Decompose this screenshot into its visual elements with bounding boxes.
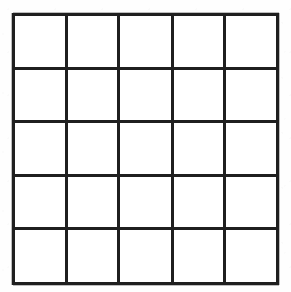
table-row (14, 14, 278, 68)
table-row (14, 122, 278, 176)
grid-table (14, 14, 278, 284)
grid-cell-r1c5[interactable] (225, 14, 278, 68)
grid-cell-r3c1[interactable] (14, 122, 67, 176)
grid-cell-r2c1[interactable] (14, 68, 67, 122)
figure-canvas (0, 0, 291, 292)
grid-cell-r5c3[interactable] (120, 230, 173, 284)
grid-body (14, 14, 278, 284)
grid-cell-r3c5[interactable] (225, 122, 278, 176)
grid-cell-r4c5[interactable] (225, 176, 278, 230)
grid-cell-r4c4[interactable] (172, 176, 225, 230)
grid-cell-r1c4[interactable] (172, 14, 225, 68)
grid-cell-r3c2[interactable] (67, 122, 120, 176)
grid-cell-r5c4[interactable] (172, 230, 225, 284)
grid-cell-r5c2[interactable] (67, 230, 120, 284)
table-row (14, 68, 278, 122)
grid-cell-r4c2[interactable] (67, 176, 120, 230)
grid-cell-r4c1[interactable] (14, 176, 67, 230)
grid-cell-r5c5[interactable] (225, 230, 278, 284)
table-row (14, 176, 278, 230)
grid-cell-r2c3[interactable] (120, 68, 173, 122)
grid-cell-r5c1[interactable] (14, 230, 67, 284)
grid-cell-r2c4[interactable] (172, 68, 225, 122)
grid-cell-r2c2[interactable] (67, 68, 120, 122)
grid-cell-r1c1[interactable] (14, 14, 67, 68)
table-row (14, 230, 278, 284)
grid-cell-r3c4[interactable] (172, 122, 225, 176)
grid-cell-r2c5[interactable] (225, 68, 278, 122)
grid-cell-r4c3[interactable] (120, 176, 173, 230)
grid-cell-r1c2[interactable] (67, 14, 120, 68)
grid-cell-r1c3[interactable] (120, 14, 173, 68)
grid-cell-r3c3[interactable] (120, 122, 173, 176)
